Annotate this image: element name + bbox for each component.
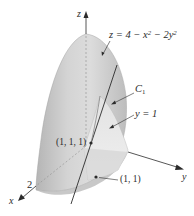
x-axis-tick-2: 2	[27, 180, 32, 191]
equation-part-1: z = 4 − x	[109, 29, 148, 40]
paraboloid-diagram: z y x 2 z = 4 − x2 − 2y2 C1 y = 1 (1, 1,…	[0, 0, 194, 216]
surface-equation-label: z = 4 − x2 − 2y2	[109, 30, 177, 41]
point-1-1-1	[89, 141, 92, 144]
point-1-1	[94, 175, 97, 178]
point-2d-label: (1, 1)	[120, 175, 141, 185]
curve-letter: C	[135, 83, 142, 94]
curve-subscript: 1	[142, 88, 145, 95]
point-3d-label: (1, 1, 1)	[56, 138, 86, 148]
z-axis-label: z	[77, 9, 81, 19]
x-axis-label: x	[9, 196, 13, 206]
x-axis-arrow	[18, 194, 25, 201]
equation-exp-2: 2	[173, 29, 176, 36]
plane-label: y = 1	[135, 109, 157, 120]
y-axis	[128, 152, 180, 168]
z-axis-arrow	[84, 11, 89, 18]
equation-part-2: − 2y	[151, 29, 173, 40]
curve-c1-label: C1	[135, 84, 145, 95]
y-axis-arrow	[175, 165, 184, 171]
y-axis-label: y	[182, 172, 186, 182]
